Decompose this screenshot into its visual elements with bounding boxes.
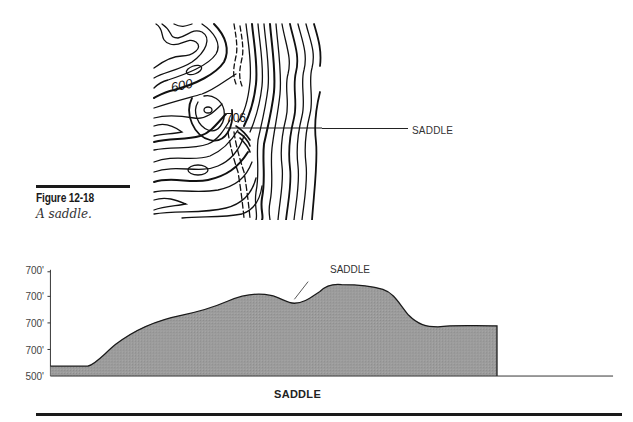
contour-label-600: 600 — [170, 76, 195, 95]
contour-map: 600 706 — [152, 22, 322, 220]
y-tick-label: 700' — [4, 265, 44, 276]
y-tick-label: 700' — [4, 345, 44, 356]
x-axis-label: SADDLE — [274, 388, 321, 400]
y-tick-label: 700' — [4, 291, 44, 302]
figure-number: Figure 12-18 — [36, 191, 94, 205]
saddle-callout-line — [322, 128, 408, 129]
bottom-rule — [36, 413, 622, 416]
y-tick-label: 700' — [4, 318, 44, 329]
map-saddle-label: SADDLE — [412, 125, 453, 136]
terrain-profile-chart — [0, 258, 633, 378]
y-tick-label: 500' — [4, 371, 44, 382]
contour-label-706: 706 — [226, 111, 246, 125]
figure-caption: A saddle. — [36, 207, 92, 221]
profile-saddle-callout: SADDLE — [330, 264, 370, 275]
terrain-area — [50, 284, 497, 376]
caption-rule — [36, 185, 130, 188]
